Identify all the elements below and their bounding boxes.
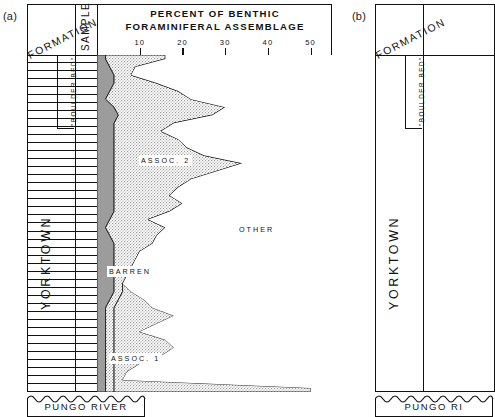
x-axis: 1020304050 xyxy=(97,34,332,55)
x-axis-tick xyxy=(140,48,141,55)
assemblage-area-chart xyxy=(97,55,332,392)
chart-title-line2: FORAMINIFERAL ASSEMBLAGE xyxy=(99,21,331,34)
panel-b-body: YORKTOWN "BOULDER BED" xyxy=(375,55,495,392)
x-axis-tick-label: 30 xyxy=(220,38,231,47)
panel-b-formation-yorktown-label: YORKTOWN xyxy=(387,216,401,310)
panel-b-formation-pungo-river-label: PUNGO RI xyxy=(375,401,493,412)
panel-b-formation-boulder-bed-label: "BOULDER BED" xyxy=(418,56,425,126)
chart-title: PERCENT OF BENTHIC FORAMINIFERAL ASSEMBL… xyxy=(99,8,331,33)
x-axis-tick-label: 40 xyxy=(263,38,274,47)
x-axis-tick xyxy=(182,48,183,55)
x-axis-tick xyxy=(268,48,269,55)
panel-a: FORMATION SAMPLE PERCENT OF BENTHIC FORA… xyxy=(27,4,332,392)
area-label-assoc1: ASSOC. 1 xyxy=(109,353,162,364)
panel-a-body: YORKTOWN "BOULDER BED" 12345678910111213… xyxy=(27,55,332,392)
panel-a-label: (a) xyxy=(3,10,17,22)
pungo-river-section: PUNGO RIVER xyxy=(27,392,332,417)
area-label-assoc2: ASSOC. 2 xyxy=(139,155,192,166)
x-axis-tick xyxy=(225,48,226,55)
formation-pungo-river-label: PUNGO RIVER xyxy=(27,401,145,412)
x-axis-tick-label: 50 xyxy=(305,38,316,47)
area-label-barren: BARREN xyxy=(107,266,153,277)
x-axis-tick-label: 10 xyxy=(134,38,145,47)
area-label-other: OTHER xyxy=(237,224,276,235)
panel-b-formation-column: YORKTOWN "BOULDER BED" xyxy=(375,55,423,392)
panel-b-formation-yorktown: YORKTOWN xyxy=(375,55,405,392)
panel-b-label: (b) xyxy=(352,10,366,22)
panel-b-formation-boulder-bed: "BOULDER BED" xyxy=(405,55,422,129)
x-axis-tick xyxy=(311,48,312,55)
panel-b: FORMATION YORKTOWN "BOULDER BED" PUNGO R… xyxy=(375,4,495,392)
chart-plot-area: ASSOC. 2 BARREN ASSOC. 1 OTHER xyxy=(97,55,332,392)
column-header-sample: SAMPLE xyxy=(80,2,91,51)
chart-title-line1: PERCENT OF BENTHIC xyxy=(99,8,331,21)
x-axis-tick-label: 20 xyxy=(177,38,188,47)
